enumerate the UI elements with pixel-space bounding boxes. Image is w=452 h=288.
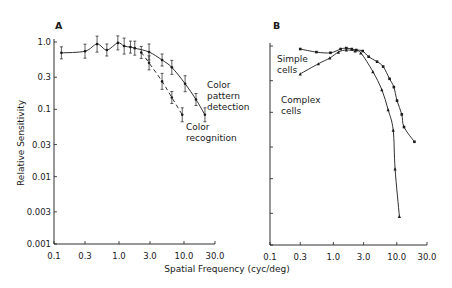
data-point: [161, 59, 164, 62]
annot-simple-cells-1: Simple: [277, 54, 308, 64]
x-tick-label: 0.1: [263, 252, 277, 262]
data-point: [117, 42, 120, 45]
y-tick-label: 0.03: [32, 140, 51, 150]
data-point-square: [299, 48, 302, 51]
data-point: [195, 98, 198, 101]
panel-a-plot: [60, 36, 207, 122]
annot-color-pattern-3: detection: [207, 102, 250, 112]
annot-simple-cells-2: cells: [277, 65, 297, 75]
data-point-square: [388, 78, 391, 81]
x-tick-label: 1.0: [112, 251, 126, 261]
data-point-triangle: [317, 62, 320, 65]
panel-a-letter: A: [55, 20, 63, 31]
series-line-color-pattern-detection: [61, 43, 205, 115]
data-point: [171, 96, 174, 99]
y-tick-label: 0.3: [37, 72, 51, 82]
y-tick-label: 0.001: [27, 239, 51, 249]
panel-b-letter: B: [273, 20, 280, 31]
annot-complex-cells-1: Complex: [281, 95, 321, 105]
series-line-complex-cells: [300, 50, 399, 216]
y-tick-label: 0.1: [37, 104, 51, 114]
data-point: [171, 66, 174, 69]
x-tick-label: 0.3: [78, 251, 92, 261]
panel-a: A 0.10.31.03.010.030.01.00.30.10.030.010…: [27, 20, 250, 261]
figure-svg: A 0.10.31.03.010.030.01.00.30.10.030.010…: [0, 0, 452, 288]
data-point: [184, 82, 187, 85]
annot-color-pattern-1: Color: [207, 80, 231, 90]
annot-color-recognition-1: Color: [186, 122, 210, 132]
data-point-triangle: [380, 88, 383, 91]
data-point: [204, 113, 207, 116]
data-point-square: [396, 99, 399, 102]
data-point: [161, 80, 164, 83]
panel-b-plot: [299, 47, 416, 218]
data-point-square: [329, 51, 332, 54]
x-axis-title: Spatial Frequency (cyc/deg): [164, 264, 289, 274]
data-point-square: [339, 48, 342, 51]
data-point: [123, 45, 126, 48]
annot-color-pattern-2: pattern: [207, 91, 240, 101]
annot-color-recognition-2: recognition: [186, 133, 237, 143]
y-tick-label: 1.0: [37, 37, 51, 47]
data-point-square: [403, 126, 406, 129]
data-point: [60, 52, 63, 55]
y-tick-label: 0.003: [27, 207, 51, 217]
x-tick-label: 1.0: [327, 252, 341, 262]
x-tick-label: 0.3: [293, 252, 307, 262]
data-point: [133, 47, 136, 50]
x-tick-label: 0.1: [47, 251, 61, 261]
data-point: [129, 46, 132, 49]
data-point-square: [413, 140, 416, 143]
data-point: [148, 51, 151, 54]
x-tick-label: 3.0: [357, 252, 371, 262]
data-point-triangle: [392, 128, 395, 131]
annot-complex-cells-2: cells: [281, 106, 301, 116]
data-point-triangle: [398, 215, 401, 218]
data-point-square: [361, 50, 364, 53]
data-point: [181, 113, 184, 116]
data-point: [148, 62, 151, 65]
x-tick-label: 30.0: [206, 251, 225, 261]
x-tick-label: 10.0: [175, 251, 194, 261]
data-point-square: [376, 60, 379, 63]
data-point: [84, 50, 87, 53]
data-point-square: [315, 51, 318, 54]
data-point: [140, 51, 143, 54]
panel-b-axes: 0.10.31.03.010.030.0: [263, 43, 436, 262]
data-point-square: [367, 55, 370, 58]
data-point: [96, 43, 99, 46]
figure: A 0.10.31.03.010.030.01.00.30.10.030.010…: [0, 0, 452, 288]
panel-b: B 0.10.31.03.010.030.0 Simple cells Comp…: [263, 20, 436, 262]
data-point-triangle: [337, 50, 340, 53]
y-tick-label: 0.01: [32, 172, 51, 182]
data-point: [106, 49, 109, 52]
x-tick-label: 3.0: [143, 251, 157, 261]
data-point-square: [382, 65, 385, 68]
x-tick-label: 10.0: [387, 252, 406, 262]
data-point-square: [400, 113, 403, 116]
data-point-triangle: [386, 108, 389, 111]
data-point-triangle: [393, 167, 396, 170]
x-tick-label: 30.0: [418, 252, 437, 262]
data-point-square: [393, 86, 396, 89]
y-axis-title: Relative Sensitivity: [16, 99, 26, 186]
panel-a-axes: 0.10.31.03.010.030.01.00.30.10.030.010.0…: [27, 37, 225, 261]
